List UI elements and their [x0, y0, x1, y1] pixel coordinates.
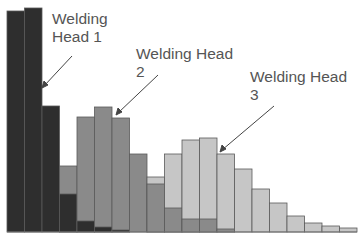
bar-welding-head-2-bin-12: [200, 219, 218, 232]
bar-welding-head-1-bin-5: [77, 221, 95, 232]
label-head1-line2: Head 1: [52, 28, 108, 46]
bar-welding-head-1-bin-2: [25, 8, 43, 232]
bar-welding-head-2-bin-7: [112, 118, 130, 232]
label-welding-head-3: Welding Head 3: [250, 68, 347, 104]
bar-welding-head-3-bin-18: [305, 223, 323, 232]
bar-welding-head-1-bin-1: [7, 11, 25, 232]
bar-welding-head-1-bin-6: [95, 227, 113, 232]
bar-welding-head-3-bin-20: [340, 228, 358, 232]
bar-welding-head-2-bin-11: [182, 219, 200, 232]
label-head2-line2: 2: [136, 63, 233, 81]
label-head2-line1: Welding Head: [136, 45, 233, 63]
bar-welding-head-3-bin-13: [217, 154, 235, 232]
bar-welding-head-1-bin-3: [42, 106, 60, 232]
bar-welding-head-2-bin-6: [95, 107, 113, 232]
bar-welding-head-2-bin-9: [147, 184, 165, 232]
bar-welding-head-3-bin-11: [182, 140, 200, 232]
bar-welding-head-3-bin-15: [252, 189, 270, 232]
bar-welding-head-2-bin-8: [130, 154, 148, 232]
label-head3-line1: Welding Head: [250, 68, 347, 86]
bar-welding-head-3-bin-17: [287, 216, 305, 232]
label-welding-head-1: Welding Head 1: [52, 10, 108, 46]
bar-welding-head-2-bin-10: [165, 208, 183, 232]
label-welding-head-2: Welding Head 2: [136, 45, 233, 81]
label-head3-line2: 3: [250, 86, 347, 104]
arrow-head3: [222, 106, 274, 150]
arrow-head1: [44, 56, 72, 86]
bar-welding-head-2-bin-5: [77, 117, 95, 232]
bar-welding-head-3-bin-19: [322, 226, 340, 232]
label-head1-line1: Welding: [52, 10, 108, 28]
bar-welding-head-1-bin-4: [60, 194, 78, 232]
bar-welding-head-3-bin-14: [235, 169, 253, 232]
bar-welding-head-3-bin-12: [200, 138, 218, 232]
arrow-head3-tip: [220, 145, 226, 152]
bar-welding-head-3-bin-16: [270, 203, 288, 232]
arrow-head2-tip: [116, 108, 122, 115]
